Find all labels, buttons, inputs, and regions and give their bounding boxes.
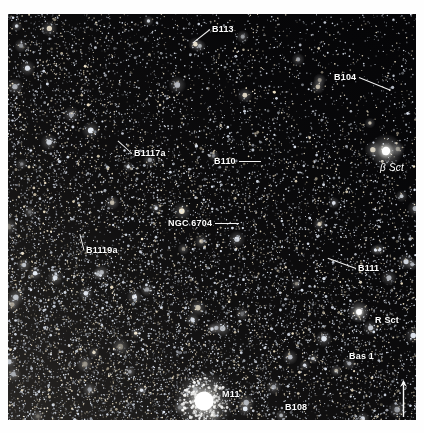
sky-image: B113B104B1117aB110β SctNGC 6704B1119aB11… [8,14,416,420]
annotation-leader-b104 [359,77,391,91]
annotation-label-b108: B108 [285,402,307,412]
screenshot-root: B113B104B1117aB110β SctNGC 6704B1119aB11… [0,0,424,433]
annotation-label-b1117a: B1117a [134,148,166,158]
annotation-leader-b110 [239,161,261,162]
annotation-label-b113: B113 [212,24,234,34]
annotation-leader-ngc6704 [215,223,239,224]
annotation-leader-b113 [192,29,210,43]
annotation-leader-b111 [328,258,357,269]
annotation-leader-b1119a [79,234,84,251]
annotation-label-b110: B110 [214,156,236,166]
annotation-label-bas1: Bas 1 [349,351,374,361]
annotation-leader-b1117a [118,140,133,153]
annotation-label-b104: B104 [334,72,356,82]
annotation-label-b111: B111 [358,263,379,273]
annotation-overlay: B113B104B1117aB110β SctNGC 6704B1119aB11… [8,14,416,420]
annotation-label-b1119a: B1119a [86,245,118,255]
annotation-label-ngc6704: NGC 6704 [168,218,212,228]
annotation-label-r-sct: R Sct [375,315,399,325]
annotation-label-m11: M11 [222,389,240,399]
north-arrow [398,380,409,420]
annotation-label-beta-sct: β Sct [380,163,404,173]
